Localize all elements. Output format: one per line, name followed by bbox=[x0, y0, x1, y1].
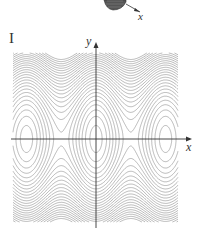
figure: I y x x bbox=[0, 0, 204, 235]
contour-lines bbox=[13, 53, 178, 222]
surface-fragment bbox=[104, 0, 140, 12]
x-axis-label: x bbox=[186, 140, 191, 155]
surface-x-axis-label: x bbox=[138, 10, 143, 22]
contour-plot bbox=[0, 0, 204, 235]
y-axis-label: y bbox=[86, 34, 91, 49]
panel-label: I bbox=[9, 30, 14, 47]
level-curves bbox=[13, 53, 178, 222]
y-axis-arrow-icon bbox=[94, 42, 99, 48]
